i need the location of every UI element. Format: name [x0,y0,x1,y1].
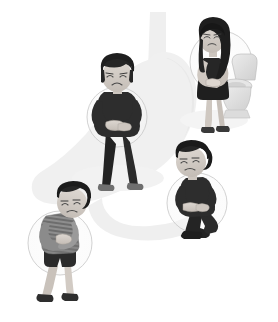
figure-kneeling-boy [167,140,227,239]
stomach-pain-scene [0,0,278,322]
illustration-canvas: Stomach Pain Symptoms [0,0,278,322]
